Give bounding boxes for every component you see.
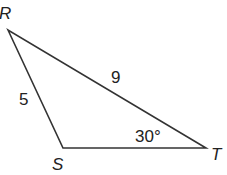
angle-label-t: 30° — [135, 127, 161, 146]
vertex-label-s: S — [52, 155, 64, 174]
side-label-rt: 9 — [111, 68, 120, 87]
vertex-label-t: T — [211, 145, 223, 164]
vertex-label-r: R — [0, 4, 11, 23]
side-label-rs: 5 — [19, 90, 28, 109]
triangle-rst — [8, 30, 206, 148]
triangle-diagram: R S T 5 9 30° — [0, 0, 227, 175]
